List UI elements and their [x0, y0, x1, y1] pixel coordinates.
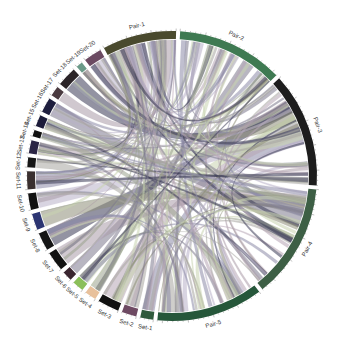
segment-label-pair-5: Pair-5	[205, 319, 223, 329]
axis-tick	[287, 264, 288, 265]
axis-tick	[294, 97, 296, 98]
segment-label-set-2: Set-2	[119, 318, 135, 328]
segment-label-set-1: Set-1	[138, 323, 154, 332]
axis-tick	[75, 65, 77, 67]
axis-tick	[40, 111, 42, 112]
axis-tick	[59, 269, 61, 271]
axis-tick	[30, 136, 32, 137]
segment-label-set-7: Set-7	[41, 259, 55, 275]
segment-set-14	[33, 130, 43, 139]
axis-tick	[108, 306, 109, 307]
axis-tick	[246, 300, 247, 301]
axis-tick	[57, 265, 58, 266]
axis-tick	[92, 54, 93, 55]
segment-label-pair-4: Pair-4	[301, 240, 314, 258]
axis-tick	[62, 79, 63, 80]
axis-tick	[73, 282, 74, 283]
axis-tick	[213, 315, 214, 317]
axis-tick	[277, 276, 278, 277]
axis-tick	[298, 247, 299, 248]
segment-label-set-20: Set-20	[78, 39, 97, 54]
segment-label-set-9: Set-9	[21, 217, 31, 233]
axis-tick	[103, 304, 104, 305]
axis-tick	[314, 145, 316, 146]
axis-tick	[306, 120, 308, 121]
segment-set-10	[28, 193, 39, 210]
segment-label-set-15: Set-15	[23, 107, 36, 126]
axis-tick	[77, 286, 78, 287]
axis-tick	[302, 111, 303, 112]
axis-tick	[279, 77, 281, 79]
axis-tick	[46, 102, 47, 103]
axis-tick	[230, 41, 231, 43]
axis-tick	[66, 76, 67, 77]
segment-label-set-11: Set-11	[15, 172, 22, 190]
chord-diagram-svg: Pair-1Pair-2Pair-3Pair-4Pair-5Set-1Set-2…	[0, 0, 344, 344]
segment-set-11	[27, 171, 36, 189]
axis-tick	[276, 74, 277, 75]
segment-label-set-4: Set-4	[78, 296, 94, 309]
axis-tick	[100, 49, 101, 50]
axis-tick	[312, 214, 314, 215]
axis-tick	[281, 272, 282, 273]
axis-tick	[235, 44, 236, 45]
axis-tick	[303, 238, 305, 239]
axis-tick	[300, 107, 301, 108]
axis-tick	[96, 51, 97, 52]
axis-tick	[81, 61, 82, 62]
axis-tick	[48, 98, 49, 99]
segment-label-set-10: Set-10	[16, 194, 25, 213]
axis-tick	[69, 72, 70, 73]
axis-tick	[51, 257, 52, 258]
axis-tick	[297, 102, 298, 103]
axis-tick	[90, 296, 91, 297]
segment-label-set-17: Set-17	[39, 76, 55, 94]
axis-tick	[81, 290, 83, 292]
axis-tick	[296, 251, 297, 252]
segment-set-1	[140, 310, 154, 320]
ribbons-layer	[36, 40, 308, 312]
axis-tick	[29, 210, 31, 211]
axis-tick	[53, 90, 54, 91]
axis-tick	[233, 308, 234, 309]
axis-tick	[262, 289, 263, 290]
segment-label-set-3: Set-3	[97, 308, 113, 320]
axis-tick	[54, 261, 55, 262]
axis-tick	[103, 46, 104, 48]
axis-tick	[88, 56, 89, 57]
axis-tick	[40, 238, 41, 239]
axis-tick	[39, 115, 40, 116]
axis-tick	[259, 292, 261, 294]
segment-set-12	[27, 157, 36, 167]
axis-tick	[126, 36, 127, 38]
axis-tick	[66, 276, 67, 277]
axis-tick	[282, 81, 283, 82]
axis-tick	[117, 311, 118, 313]
axis-tick	[69, 280, 71, 282]
axis-tick	[292, 93, 293, 94]
axis-tick	[289, 89, 290, 90]
axis-tick	[85, 292, 86, 293]
segment-label-set-8: Set-8	[29, 238, 41, 254]
segment-label-set-5: Set-5	[65, 286, 80, 300]
axis-tick	[253, 53, 254, 55]
axis-tick	[248, 52, 249, 53]
chord-diagram: Pair-1Pair-2Pair-3Pair-4Pair-5Set-1Set-2…	[0, 0, 344, 344]
axis-tick	[261, 61, 262, 62]
segment-label-pair-2: Pair-2	[228, 30, 246, 42]
axis-tick	[265, 64, 266, 65]
axis-tick	[242, 303, 243, 304]
axis-tick	[237, 305, 238, 307]
axis-tick	[255, 295, 256, 296]
axis-tick	[290, 260, 292, 261]
axis-tick	[42, 242, 43, 243]
axis-tick	[98, 301, 99, 302]
axis-tick	[257, 57, 258, 58]
axis-tick	[50, 94, 52, 95]
segment-label-pair-1: Pair-1	[128, 21, 146, 31]
axis-tick	[43, 107, 44, 108]
axis-tick	[108, 45, 109, 46]
axis-tick	[269, 67, 270, 68]
axis-tick	[266, 286, 267, 287]
segment-set-13	[29, 140, 39, 154]
